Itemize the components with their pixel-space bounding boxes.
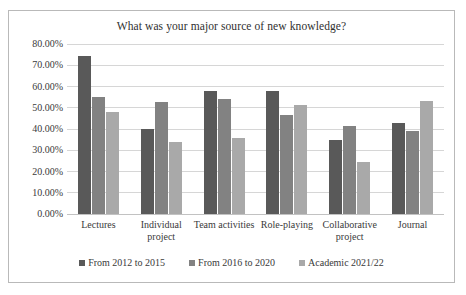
bar-group	[318, 44, 381, 214]
bar[interactable]	[106, 112, 119, 214]
plot-area	[67, 44, 444, 214]
x-axis: LecturesIndividual projectTeam activitie…	[67, 216, 444, 256]
bar[interactable]	[169, 142, 182, 214]
x-axis-tick-label: Lectures	[67, 216, 130, 256]
legend-label: Academic 2021/22	[308, 257, 384, 268]
legend-swatch-icon	[299, 260, 305, 266]
bar[interactable]	[141, 129, 154, 214]
y-axis-tick-label: 50.00%	[32, 103, 63, 113]
y-axis-tick-label: 80.00%	[32, 39, 63, 49]
bar[interactable]	[294, 105, 307, 214]
bar[interactable]	[204, 91, 217, 214]
bar[interactable]	[357, 162, 370, 214]
legend-item[interactable]: Academic 2021/22	[299, 257, 384, 268]
bar[interactable]	[392, 123, 405, 214]
bar[interactable]	[232, 138, 245, 215]
bar[interactable]	[92, 97, 105, 214]
chart-container: What was your major source of new knowle…	[8, 10, 455, 283]
y-axis-tick-label: 40.00%	[32, 124, 63, 134]
y-axis-tick-label: 30.00%	[32, 145, 63, 155]
y-axis-tick-label: 0.00%	[37, 209, 63, 219]
bar[interactable]	[155, 102, 168, 214]
y-axis-tick-label: 70.00%	[32, 60, 63, 70]
y-axis-tick-label: 20.00%	[32, 167, 63, 177]
x-axis-tick-label: Individual project	[130, 216, 193, 256]
x-axis-tick-label: Journal	[381, 216, 444, 256]
legend-item[interactable]: From 2012 to 2015	[79, 257, 165, 268]
bar[interactable]	[78, 56, 91, 214]
chart-legend: From 2012 to 2015From 2016 to 2020Academ…	[9, 257, 454, 268]
legend-label: From 2016 to 2020	[198, 257, 275, 268]
bar[interactable]	[420, 101, 433, 214]
y-axis: 80.00%70.00%60.00%50.00%40.00%30.00%20.0…	[9, 44, 67, 214]
x-axis-tick-label: Team activities	[193, 216, 256, 256]
x-axis-tick-label: Role-playing	[255, 216, 318, 256]
x-axis-tick-label: Collaborative project	[318, 216, 381, 256]
bar-group	[130, 44, 193, 214]
legend-item[interactable]: From 2016 to 2020	[189, 257, 275, 268]
bars-layer	[67, 44, 444, 214]
bar-group	[255, 44, 318, 214]
bar[interactable]	[343, 126, 356, 214]
plot-wrapper: 80.00%70.00%60.00%50.00%40.00%30.00%20.0…	[9, 11, 454, 282]
bar[interactable]	[266, 91, 279, 214]
legend-swatch-icon	[79, 260, 85, 266]
bar[interactable]	[218, 99, 231, 214]
bar[interactable]	[280, 115, 293, 214]
legend-swatch-icon	[189, 260, 195, 266]
legend-label: From 2012 to 2015	[88, 257, 165, 268]
bar-group	[193, 44, 256, 214]
bar[interactable]	[406, 131, 419, 214]
bar-group	[381, 44, 444, 214]
y-axis-tick-label: 10.00%	[32, 188, 63, 198]
bar-group	[67, 44, 130, 214]
bar[interactable]	[329, 140, 342, 214]
y-axis-tick-label: 60.00%	[32, 82, 63, 92]
